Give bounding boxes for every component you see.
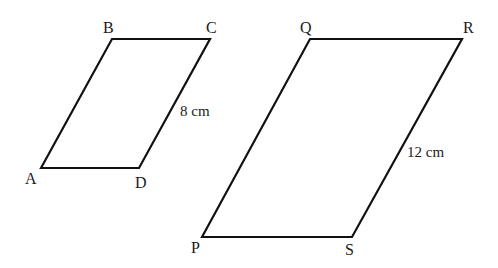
vertex-label-b: B bbox=[103, 19, 114, 36]
side-label-rs: 12 cm bbox=[407, 144, 444, 160]
parallelogram-pqrs bbox=[202, 39, 462, 237]
parallelograms-diagram: B C A D 8 cm Q R P S 12 cm bbox=[0, 0, 498, 268]
vertex-label-r: R bbox=[463, 19, 474, 36]
vertex-label-s: S bbox=[345, 241, 354, 258]
vertex-label-p: P bbox=[191, 239, 200, 256]
vertex-label-d: D bbox=[135, 174, 147, 191]
vertex-label-a: A bbox=[25, 170, 37, 187]
vertex-label-q: Q bbox=[300, 19, 312, 36]
vertex-label-c: C bbox=[206, 19, 217, 36]
side-label-cd: 8 cm bbox=[180, 103, 210, 119]
